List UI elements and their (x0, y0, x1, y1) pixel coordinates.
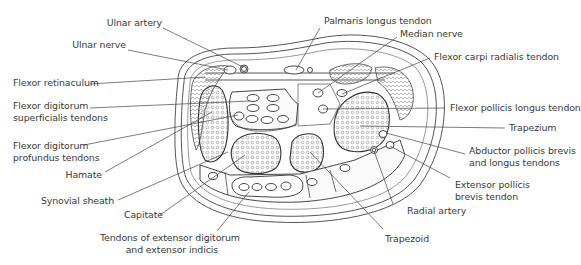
label-epb-line2: brevis tendon (455, 191, 530, 203)
label-median-nerve: Median nerve (400, 28, 463, 40)
label-fdp-line2: profundus tendons (13, 152, 99, 164)
label-fdp-line1: Flexor digitorum (13, 140, 99, 152)
trapezoid-bone (290, 134, 324, 173)
label-ulnar-artery: Ulnar artery (100, 17, 162, 29)
label-extensor-line1: Tendons of extensor digitorum (100, 232, 218, 244)
label-fcr-tendon: Flexor carpi radialis tendon (434, 51, 559, 63)
thenar-muscle-upper (330, 64, 372, 84)
label-capitate: Capitate (124, 209, 163, 221)
label-epb: Extensor pollicis brevis tendon (455, 179, 530, 203)
capitate-bone (231, 133, 281, 173)
label-apb-line2: and longus tendons (469, 157, 576, 169)
label-fds-line2: superficialis tendons (13, 112, 108, 124)
label-fds-tendons: Flexor digitorum superficialis tendons (13, 100, 108, 124)
label-epb-line1: Extensor pollicis (455, 179, 530, 191)
label-fpl-tendon: Flexor pollicis longus tendon (450, 102, 581, 114)
label-apb-line1: Abductor pollicis brevis (469, 145, 576, 157)
label-palmaris-longus: Palmaris longus tendon (324, 15, 432, 27)
label-fds-line1: Flexor digitorum (13, 100, 108, 112)
label-flexor-retinaculum: Flexor retinaculum (13, 77, 99, 89)
label-hamate: Hamate (50, 169, 102, 181)
label-apb-apl: Abductor pollicis brevis and longus tend… (469, 145, 576, 169)
label-radial-artery: Radial artery (407, 205, 466, 217)
label-synovial-sheath: Synovial sheath (30, 195, 114, 207)
carpal-tunnel-tendons (229, 84, 347, 131)
trapezium-bone (334, 92, 389, 151)
label-trapezoid: Trapezoid (385, 233, 429, 245)
label-trapezium: Trapezium (509, 122, 556, 134)
hamate-bone (198, 86, 228, 162)
label-fdp-tendons: Flexor digitorum profundus tendons (13, 140, 99, 164)
label-extensor-line2: and extensor indicis (100, 244, 218, 256)
label-ulnar-nerve: Ulnar nerve (60, 39, 126, 51)
label-extensor-tendons: Tendons of extensor digitorum and extens… (100, 232, 218, 256)
